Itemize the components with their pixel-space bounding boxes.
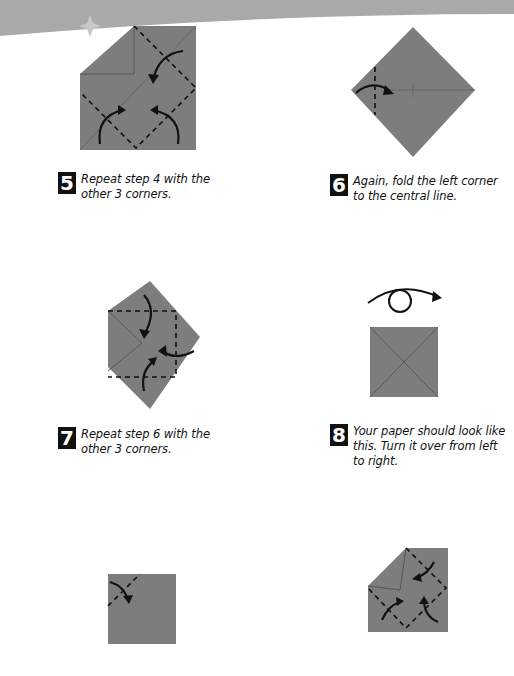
step-9-diagram [104, 572, 178, 646]
step-6-number: 6 [330, 174, 348, 196]
step-8-text: Your paper should look like this. Turn i… [353, 424, 510, 469]
step-5-caption: 5 Repeat step 4 with the other 3 corners… [58, 172, 238, 202]
step-8-caption: 8 Your paper should look like this. Turn… [330, 424, 510, 469]
step-7-caption: 7 Repeat step 6 with the other 3 corners… [58, 427, 238, 457]
step-8-diagram [366, 285, 446, 400]
step-7-text: Repeat step 6 with the other 3 corners. [81, 427, 238, 457]
step-5-text: Repeat step 4 with the other 3 corners. [81, 172, 238, 202]
step-6-diagram [350, 27, 476, 159]
step-7-number: 7 [58, 427, 76, 449]
step-10-diagram [366, 546, 452, 636]
step-5-number: 5 [58, 172, 76, 194]
step-5-diagram [78, 26, 198, 152]
step-7-diagram [104, 281, 204, 411]
step-6-caption: 6 Again, fold the left corner to the cen… [330, 174, 510, 204]
step-8-number: 8 [330, 424, 348, 446]
step-6-text: Again, fold the left corner to the centr… [353, 174, 510, 204]
